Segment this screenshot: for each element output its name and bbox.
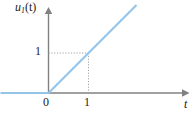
- plot-canvas: [0, 0, 195, 118]
- y-axis-label: u1(t): [15, 1, 36, 15]
- y-tick-label-1: 1: [35, 45, 41, 57]
- origin-tick-label: 0: [43, 96, 49, 108]
- y-axis-label-argument: (t): [25, 0, 36, 14]
- x-axis-label: t: [184, 98, 187, 110]
- x-axis-arrow-icon: [182, 89, 190, 97]
- ramp-curve: [1, 5, 137, 93]
- x-tick-label-1: 1: [84, 96, 90, 108]
- y-axis-arrow-icon: [45, 7, 52, 14]
- unit-ramp-figure: u1(t) t 0 1 1: [0, 0, 195, 118]
